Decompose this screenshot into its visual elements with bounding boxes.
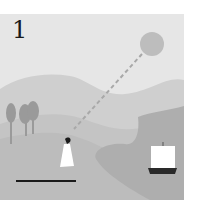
sail — [151, 146, 175, 168]
ship — [148, 142, 177, 174]
landscape-illustration — [0, 14, 184, 200]
illustration-panel: 1 — [0, 14, 184, 200]
hull — [148, 168, 177, 174]
shadow-line — [16, 180, 76, 182]
sun-icon — [140, 32, 164, 56]
panel-number: 1 — [12, 18, 27, 42]
